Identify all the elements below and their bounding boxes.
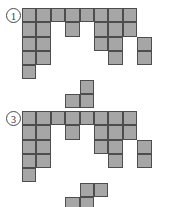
figure-1-label: 1 xyxy=(6,8,21,23)
grid-cell xyxy=(65,197,79,207)
grid-cell xyxy=(65,125,79,139)
grid-cell xyxy=(22,22,36,36)
grid-cell xyxy=(22,140,36,154)
grid-cell xyxy=(108,140,122,154)
grid-cell xyxy=(80,183,94,197)
grid-cell xyxy=(65,22,79,36)
grid-cell xyxy=(108,111,122,125)
grid-cell xyxy=(123,22,137,36)
grid-cell xyxy=(94,22,108,36)
grid-cell xyxy=(65,8,79,22)
grid-cell xyxy=(51,8,65,22)
grid-cell xyxy=(22,51,36,65)
grid-cell xyxy=(108,22,122,36)
grid-cell xyxy=(80,111,94,125)
grid-cell xyxy=(65,111,79,125)
grid-cell xyxy=(36,8,50,22)
grid-cell xyxy=(137,37,151,51)
figure-block-3: 3 xyxy=(0,103,171,206)
grid-cell xyxy=(94,125,108,139)
grid-cell xyxy=(80,197,94,207)
grid-cell xyxy=(22,125,36,139)
grid-cell xyxy=(108,125,122,139)
grid-cell xyxy=(36,37,50,51)
grid-cell xyxy=(123,125,137,139)
grid-cell xyxy=(108,37,122,51)
grid-cell xyxy=(22,37,36,51)
grid-cell xyxy=(94,111,108,125)
grid-cell xyxy=(36,111,50,125)
grid-cell xyxy=(36,154,50,168)
grid-cell xyxy=(36,51,50,65)
grid-cell xyxy=(36,140,50,154)
figure-block-1: 1 xyxy=(0,0,171,103)
grid-cell xyxy=(94,183,108,197)
grid-cell xyxy=(94,8,108,22)
grid-cell xyxy=(94,140,108,154)
grid-cell xyxy=(94,37,108,51)
grid-cell xyxy=(22,65,36,79)
grid-cell xyxy=(123,8,137,22)
grid-cell xyxy=(22,111,36,125)
grid-cell xyxy=(22,8,36,22)
grid-cell xyxy=(137,154,151,168)
grid-cell xyxy=(137,51,151,65)
figure-3-label: 3 xyxy=(6,111,21,126)
grid-cell xyxy=(123,111,137,125)
grid-cell xyxy=(80,80,94,94)
figure-1-grid xyxy=(22,8,152,109)
grid-cell xyxy=(36,22,50,36)
grid-cell xyxy=(36,125,50,139)
grid-cell xyxy=(22,168,36,182)
grid-cell xyxy=(108,154,122,168)
grid-cell xyxy=(22,154,36,168)
grid-cell xyxy=(51,111,65,125)
grid-cell xyxy=(108,8,122,22)
figure-3-grid xyxy=(22,111,152,207)
grid-cell xyxy=(137,140,151,154)
grid-cell xyxy=(108,51,122,65)
grid-cell xyxy=(80,8,94,22)
